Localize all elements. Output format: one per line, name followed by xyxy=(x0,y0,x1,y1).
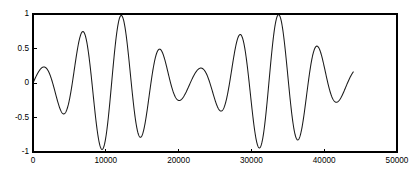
y-tick-label: -1 xyxy=(22,147,30,156)
y-tick-label: -0.5 xyxy=(15,113,30,122)
x-tick-label: 30000 xyxy=(240,156,263,165)
x-tick-label: 40000 xyxy=(313,156,336,165)
x-tick-label: 20000 xyxy=(167,156,190,165)
x-tick-label: 50000 xyxy=(386,156,409,165)
chart-figure: 01000020000300004000050000 -1-0.500.51 xyxy=(0,0,419,177)
y-tick-label: 0 xyxy=(24,78,29,87)
plot-background xyxy=(33,14,397,152)
x-tick-label: 10000 xyxy=(94,156,117,165)
plot-canvas: 01000020000300004000050000 -1-0.500.51 xyxy=(0,0,419,177)
y-tick-label: 1 xyxy=(24,9,29,18)
x-tick-label: 0 xyxy=(31,156,36,165)
y-tick-label: 0.5 xyxy=(18,44,30,53)
